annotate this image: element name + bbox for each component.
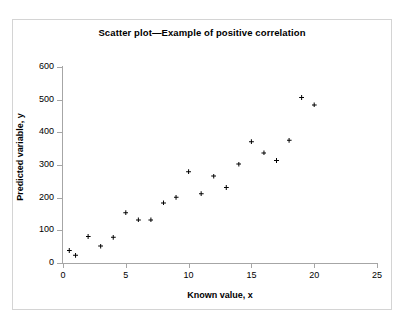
x-axis-tick: [189, 264, 190, 268]
data-point: [73, 253, 78, 258]
x-axis-tick: [126, 264, 127, 268]
data-point: [236, 162, 241, 167]
y-axis-tick-label: 100: [28, 224, 54, 234]
scatter-plot-figure: Scatter plot—Example of positive correla…: [0, 0, 406, 325]
data-point: [249, 139, 254, 144]
y-axis-tick: [57, 263, 62, 264]
y-axis-tick-label: 200: [28, 192, 54, 202]
y-axis-tick: [57, 67, 62, 68]
x-axis-tick: [251, 264, 252, 268]
plot-area: [63, 67, 377, 263]
x-axis-tick-label: 10: [177, 270, 201, 280]
x-axis-tick-label: 25: [365, 270, 389, 280]
y-axis-tick: [57, 198, 62, 199]
data-point: [211, 174, 216, 179]
data-point: [136, 217, 141, 222]
data-point: [261, 150, 266, 155]
data-point: [123, 210, 128, 215]
data-point: [274, 158, 279, 163]
y-axis-tick-label: 600: [28, 61, 54, 71]
x-axis-tick: [63, 264, 64, 268]
x-axis-tick: [314, 264, 315, 268]
data-point: [148, 217, 153, 222]
x-axis-line: [62, 263, 378, 264]
y-axis-title: Predicted variable, y: [15, 92, 25, 222]
chart-title: Scatter plot—Example of positive correla…: [12, 27, 392, 38]
data-point: [98, 244, 103, 249]
data-point: [287, 138, 292, 143]
x-axis-tick-label: 0: [51, 270, 75, 280]
y-axis-tick: [57, 165, 62, 166]
x-axis-tick-label: 15: [239, 270, 263, 280]
y-axis-tick-label: 300: [28, 159, 54, 169]
x-axis-tick-label: 5: [114, 270, 138, 280]
y-axis-tick-label: 400: [28, 126, 54, 136]
data-point: [199, 191, 204, 196]
data-point: [174, 195, 179, 200]
data-point: [111, 235, 116, 240]
x-axis-title: Known value, x: [63, 290, 377, 300]
data-point: [186, 169, 191, 174]
data-point: [86, 234, 91, 239]
x-axis-tick: [377, 264, 378, 268]
x-axis-tick-label: 20: [302, 270, 326, 280]
y-axis-tick-label: 0: [28, 257, 54, 267]
y-axis-tick-label: 500: [28, 94, 54, 104]
data-point: [161, 200, 166, 205]
data-point: [224, 185, 229, 190]
y-axis-tick: [57, 100, 62, 101]
data-point: [67, 248, 72, 253]
data-point: [299, 95, 304, 100]
data-point: [312, 102, 317, 107]
y-axis-tick: [57, 132, 62, 133]
y-axis-tick: [57, 230, 62, 231]
